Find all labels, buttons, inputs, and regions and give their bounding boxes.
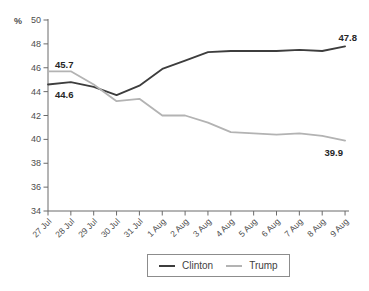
clinton-line [48,46,345,95]
y-axis-unit-label: % [14,16,22,26]
x-axis-label: 2 Aug [168,216,191,239]
x-axis-label: 8 Aug [305,216,328,239]
x-axis-label: 7 Aug [282,216,305,239]
y-axis-label: 48 [31,39,41,49]
x-axis-label: 6 Aug [259,216,282,239]
y-axis-label: 38 [31,158,41,168]
legend-label-clinton: Clinton [182,261,213,271]
x-axis-label: 4 Aug [214,216,237,239]
chart-container: 343638404244464850%27 Jul28 Jul29 Jul30 … [0,0,369,291]
x-axis-label: 5 Aug [237,216,260,239]
x-axis-label: 31 Jul [122,216,145,239]
trump-line-swatch [226,265,242,267]
clinton-line-swatch [159,265,175,267]
legend-item-clinton: Clinton [159,261,213,271]
legend-label-trump: Trump [249,261,278,271]
clinton-start-value-label: 44.6 [55,89,74,100]
x-axis-label: 3 Aug [191,216,214,239]
trump-start-value-label: 45.7 [55,59,74,70]
y-axis-label: 42 [31,111,41,121]
x-axis-label: 30 Jul [99,216,122,239]
x-axis-label: 1 Aug [145,216,168,239]
y-axis-label: 46 [31,63,41,73]
axis-lines [48,19,349,211]
y-axis-label: 40 [31,134,41,144]
clinton-end-value-label: 47.8 [339,32,358,43]
trump-line [48,71,345,140]
poll-trend-chart: 343638404244464850%27 Jul28 Jul29 Jul30 … [0,0,369,291]
y-axis-label: 50 [31,15,41,25]
x-axis-label: 28 Jul [53,216,76,239]
x-axis-label: 27 Jul [30,216,53,239]
legend-item-trump: Trump [226,261,278,271]
x-axis-label: 9 Aug [328,216,351,239]
trump-end-value-label: 39.9 [325,147,344,158]
x-axis-label: 29 Jul [76,216,99,239]
y-axis-label: 34 [31,206,41,216]
chart-legend: Clinton Trump [147,254,290,277]
y-axis-label: 36 [31,182,41,192]
y-axis-label: 44 [31,87,41,97]
